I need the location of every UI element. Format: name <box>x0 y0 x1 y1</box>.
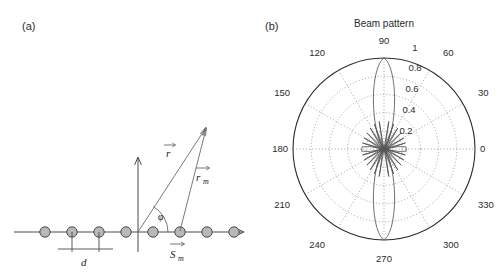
angle-label-60: 60 <box>443 47 454 58</box>
angle-label-30: 30 <box>478 87 489 98</box>
r-vector-text: r <box>166 147 171 159</box>
s-vector: S m <box>170 242 185 263</box>
figure-container: (a) <box>0 0 502 273</box>
polar-radius-labels: 0.2 0.4 0.6 0.8 1 <box>399 42 421 136</box>
rm-vector-subscript: m <box>203 177 209 186</box>
spacing-label: d <box>81 256 87 268</box>
angle-label-270: 270 <box>376 253 392 264</box>
panel-b: (b) Beam pattern <box>265 18 494 264</box>
vertical-axis <box>135 157 142 252</box>
radius-label-02: 0.2 <box>399 125 412 136</box>
rm-vector-label: r m <box>196 166 210 186</box>
s-vector-text: S <box>170 248 176 260</box>
angle-label-150: 150 <box>274 87 290 98</box>
spacing-bracket <box>58 232 113 252</box>
angle-label-120: 120 <box>309 47 325 58</box>
polar-plot-title: Beam pattern <box>354 18 414 29</box>
phi-angle-label: φ <box>158 211 164 222</box>
array-element <box>40 227 50 237</box>
radius-label-08: 0.8 <box>408 62 421 73</box>
panel-b-label: (b) <box>265 20 278 32</box>
array-element <box>202 227 212 237</box>
angle-label-0: 0 <box>480 143 485 154</box>
s-vector-subscript: m <box>178 254 184 263</box>
angle-label-300: 300 <box>443 239 459 250</box>
radius-label-06: 0.6 <box>405 83 418 94</box>
angle-label-180: 180 <box>272 143 288 154</box>
panel-a: (a) <box>14 20 244 268</box>
radius-label-10: 1 <box>412 42 417 53</box>
figure-svg: (a) <box>0 0 502 273</box>
angle-label-210: 210 <box>274 199 290 210</box>
radius-label-04: 0.4 <box>402 104 415 115</box>
angle-label-90: 90 <box>379 35 390 46</box>
beam-pattern-curve <box>362 58 407 240</box>
array-element <box>229 227 239 237</box>
array-element <box>121 227 131 237</box>
array-element <box>175 227 185 237</box>
angle-label-330: 330 <box>478 199 494 210</box>
r-vector-label: r <box>164 143 176 159</box>
array-element <box>148 227 158 237</box>
rm-vector-text: r <box>196 171 201 183</box>
angle-label-240: 240 <box>309 239 325 250</box>
panel-a-label: (a) <box>22 20 35 32</box>
